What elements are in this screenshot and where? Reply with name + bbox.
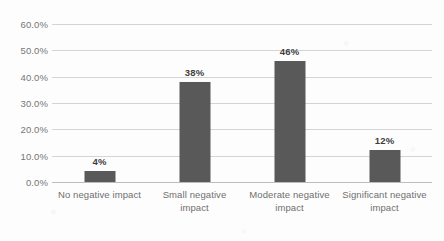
bar-slot: 46%	[242, 24, 337, 182]
y-axis: 60.0%50.0%40.0%30.0%20.0%10.0%0.0%	[0, 24, 48, 182]
bar-slot: 4%	[52, 24, 147, 182]
y-axis-tick-label: 0.0%	[2, 177, 48, 188]
category-label-line: Small negative impact	[163, 189, 227, 213]
bar-slot: 38%	[147, 24, 242, 182]
axis-baseline	[52, 182, 432, 183]
x-axis-category-label: No negative impact	[52, 188, 147, 201]
x-axis-categories: No negative impactSmall negative impactM…	[52, 188, 432, 236]
x-axis-category-label: Small negative impact	[147, 188, 242, 214]
x-axis-category-label: Significant negativeimpact	[337, 188, 432, 214]
y-axis-tick-label: 20.0%	[2, 124, 48, 135]
bar-value-label: 38%	[185, 67, 205, 78]
bar[interactable]	[274, 61, 305, 182]
category-label-line: No negative impact	[58, 189, 141, 200]
y-axis-tick-label: 50.0%	[2, 45, 48, 56]
bar-slot: 12%	[337, 24, 432, 182]
category-label-line: Significant negative	[342, 189, 426, 200]
category-label-line: impact	[242, 201, 337, 214]
category-label-line: impact	[337, 201, 432, 214]
plot-area: 4%38%46%12%	[52, 24, 432, 182]
bar-chart: 60.0%50.0%40.0%30.0%20.0%10.0%0.0% 4%38%…	[0, 0, 444, 241]
bar[interactable]	[369, 150, 400, 182]
bar-value-label: 12%	[375, 135, 395, 146]
y-axis-tick-label: 10.0%	[2, 150, 48, 161]
x-axis-category-label: Moderate negativeimpact	[242, 188, 337, 214]
category-label-line: Moderate negative	[249, 189, 329, 200]
bar[interactable]	[179, 82, 210, 182]
bar-value-label: 4%	[92, 156, 106, 167]
y-axis-tick-label: 40.0%	[2, 71, 48, 82]
bar[interactable]	[84, 171, 115, 182]
bar-value-label: 46%	[280, 46, 300, 57]
y-axis-tick-label: 60.0%	[2, 19, 48, 30]
y-axis-tick-label: 30.0%	[2, 98, 48, 109]
